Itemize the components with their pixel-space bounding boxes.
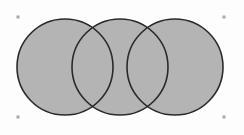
selection-handle-0[interactable] xyxy=(17,16,20,19)
selection-handle-2[interactable] xyxy=(17,116,20,119)
selection-handle-3[interactable] xyxy=(223,116,226,119)
selection-handle-1[interactable] xyxy=(223,16,226,19)
venn-diagram-canvas xyxy=(0,0,244,135)
circle-fills xyxy=(17,19,223,115)
